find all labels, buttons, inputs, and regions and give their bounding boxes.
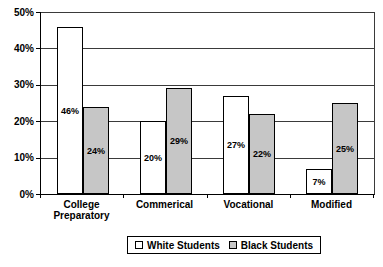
legend-swatch-white-students <box>135 241 143 249</box>
gridline <box>41 12 374 13</box>
bar-data-label: 20% <box>137 153 169 163</box>
legend-item-black-students: Black Students <box>229 240 313 251</box>
bar-black-students-commerical: 29% <box>166 88 192 194</box>
y-axis-tick-label: 10% <box>0 152 34 163</box>
gridline <box>41 48 374 49</box>
x-axis-tick-mark <box>373 194 374 198</box>
x-axis-tick-mark <box>40 194 41 198</box>
x-axis-tick-mark <box>123 194 124 198</box>
bar-data-label: 22% <box>246 149 278 159</box>
x-axis-tick-mark <box>207 194 208 198</box>
x-axis-tick-mark <box>290 194 291 198</box>
bar-black-students-modified: 25% <box>332 103 358 194</box>
bar-white-students-vocational: 27% <box>223 96 249 194</box>
y-axis-tick-mark <box>36 158 40 159</box>
category-label-college-preparatory: College Preparatory <box>40 199 123 221</box>
category-label-modified: Modified <box>290 199 373 210</box>
legend-swatch-black-students <box>229 241 237 249</box>
bar-data-label: 25% <box>329 144 361 154</box>
bar-chart-figure: 46%24%20%29%27%22%7%25% 0%10%20%30%40%50… <box>0 0 383 267</box>
y-axis-tick-label: 0% <box>0 189 34 200</box>
bar-data-label: 24% <box>80 146 112 156</box>
bar-data-label: 7% <box>303 177 335 187</box>
y-axis-tick-label: 20% <box>0 116 34 127</box>
y-axis-tick-mark <box>36 121 40 122</box>
bar-white-students-college-preparatory: 46% <box>57 27 83 194</box>
y-axis-tick-label: 40% <box>0 43 34 54</box>
y-axis-tick-mark <box>36 12 40 13</box>
bar-data-label: 46% <box>54 106 86 116</box>
bar-white-students-commerical: 20% <box>140 121 166 194</box>
gridline <box>41 85 374 86</box>
category-label-commerical: Commerical <box>123 199 206 210</box>
plot-area: 46%24%20%29%27%22%7%25% <box>40 12 375 195</box>
bar-black-students-college-preparatory: 24% <box>83 107 109 194</box>
y-axis-tick-label: 50% <box>0 7 34 18</box>
bar-white-students-modified: 7% <box>306 169 332 194</box>
legend-label: White Students <box>147 240 220 251</box>
bar-data-label: 29% <box>163 136 195 146</box>
y-axis-tick-label: 30% <box>0 79 34 90</box>
bar-black-students-vocational: 22% <box>249 114 275 194</box>
y-axis-tick-mark <box>36 85 40 86</box>
category-label-vocational: Vocational <box>207 199 290 210</box>
y-axis-tick-mark <box>36 48 40 49</box>
legend: White StudentsBlack Students <box>127 236 321 254</box>
legend-item-white-students: White Students <box>135 240 220 251</box>
legend-label: Black Students <box>241 240 313 251</box>
